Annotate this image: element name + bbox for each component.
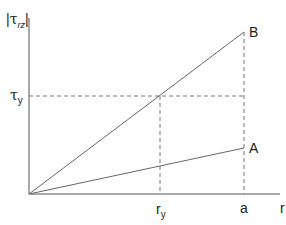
ry-subscript: y [161,209,166,220]
y-subscript: rz [17,20,25,30]
label-A: A [249,141,258,155]
y-axis-label: |τrz| [6,12,29,26]
line-A [29,148,244,194]
x-axis-label: r [280,201,285,215]
line-B [29,32,244,194]
diagram-canvas [0,0,286,225]
tau-symbol: τ [10,87,18,103]
r-symbol: r [156,201,161,217]
a-tick-label: a [240,201,248,215]
ry-tick-label: ry [156,202,166,216]
abs-bar-right: | [25,11,29,27]
yield-subscript: y [18,95,23,106]
yield-stress-label: τy [10,88,23,102]
label-B: B [249,25,258,39]
